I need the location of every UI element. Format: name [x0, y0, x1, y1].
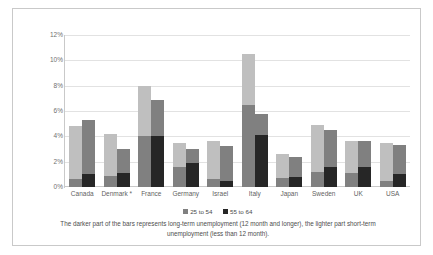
bar-segment-long-term	[173, 167, 186, 187]
chart-container: 0%2%4%6%8%10%12% CanadaDenmark *FranceGe…	[12, 8, 421, 246]
bar-age-25-54[interactable]	[276, 154, 289, 187]
bar-age-55-64[interactable]	[151, 100, 164, 187]
bar-segment-short-term	[186, 149, 199, 163]
bar-age-25-54[interactable]	[104, 134, 117, 187]
bar-age-55-64[interactable]	[186, 149, 199, 187]
bar-groups	[65, 35, 410, 187]
x-axis-tick-label: Canada	[65, 189, 100, 203]
bar-age-25-54[interactable]	[207, 141, 220, 187]
x-axis-tick-label: Sweden	[307, 189, 342, 203]
bar-age-55-64[interactable]	[117, 149, 130, 187]
bar-age-55-64[interactable]	[358, 141, 371, 187]
bar-segment-long-term	[104, 176, 117, 187]
bar-group	[203, 35, 238, 187]
bar-segment-long-term	[242, 105, 255, 187]
bar-group	[341, 35, 376, 187]
bar-segment-long-term	[186, 163, 199, 187]
x-axis-tick-label: Japan	[272, 189, 307, 203]
bar-segment-short-term	[69, 126, 82, 179]
bar-segment-long-term	[345, 173, 358, 187]
x-axis-tick-label: Italy	[238, 189, 273, 203]
bar-age-55-64[interactable]	[324, 130, 337, 187]
x-axis-tick-label: USA	[376, 189, 411, 203]
x-axis: CanadaDenmark *FranceGermanyIsraelItalyJ…	[65, 189, 410, 203]
bar-segment-long-term	[207, 179, 220, 187]
bar-segment-short-term	[345, 141, 358, 173]
bar-segment-short-term	[311, 125, 324, 172]
bar-segment-short-term	[380, 143, 393, 181]
y-axis: 0%2%4%6%8%10%12%	[27, 9, 63, 209]
bar-segment-long-term	[358, 167, 371, 187]
bar-segment-short-term	[104, 134, 117, 176]
bar-age-55-64[interactable]	[393, 145, 406, 187]
bar-segment-long-term	[276, 178, 289, 187]
y-axis-tick-label: 2%	[29, 158, 63, 166]
chart-footnote: The darker part of the bars represents l…	[39, 219, 397, 238]
bar-segment-short-term	[82, 120, 95, 174]
legend-label: 55 to 64	[230, 208, 252, 215]
bar-age-25-54[interactable]	[242, 54, 255, 187]
bar-age-25-54[interactable]	[380, 143, 393, 187]
bar-group	[307, 35, 342, 187]
bar-age-25-54[interactable]	[173, 143, 186, 187]
bar-group	[272, 35, 307, 187]
x-axis-tick-label: France	[134, 189, 169, 203]
chart-legend: 25 to 5455 to 64	[13, 205, 422, 217]
bar-group	[238, 35, 273, 187]
bar-segment-short-term	[289, 157, 302, 177]
bar-segment-short-term	[242, 54, 255, 105]
bar-segment-short-term	[393, 145, 406, 174]
bar-segment-long-term	[117, 173, 130, 187]
legend-swatch-icon	[183, 209, 188, 214]
bar-group	[169, 35, 204, 187]
y-axis-tick-label: 0%	[29, 183, 63, 191]
bar-age-55-64[interactable]	[255, 114, 268, 187]
bar-age-25-54[interactable]	[311, 125, 324, 187]
bar-segment-short-term	[173, 143, 186, 167]
bar-segment-long-term	[393, 174, 406, 187]
bar-segment-long-term	[324, 167, 337, 187]
bar-segment-short-term	[324, 130, 337, 167]
bar-group	[376, 35, 411, 187]
bar-segment-short-term	[220, 146, 233, 180]
y-axis-tick-label: 12%	[29, 31, 63, 39]
plot-area	[65, 35, 410, 187]
x-axis-tick-label: Denmark *	[100, 189, 135, 203]
legend-label: 25 to 54	[190, 208, 212, 215]
x-axis-tick-label: UK	[341, 189, 376, 203]
bar-group	[65, 35, 100, 187]
y-axis-tick-label: 8%	[29, 82, 63, 90]
bar-segment-long-term	[82, 174, 95, 187]
bar-segment-long-term	[69, 179, 82, 187]
bar-age-25-54[interactable]	[138, 86, 151, 187]
x-axis-tick-label: Israel	[203, 189, 238, 203]
bar-age-25-54[interactable]	[345, 141, 358, 187]
bar-segment-short-term	[151, 100, 164, 137]
bar-age-25-54[interactable]	[69, 126, 82, 187]
bar-segment-long-term	[289, 177, 302, 187]
bar-segment-short-term	[255, 114, 268, 136]
y-axis-tick-label: 10%	[29, 56, 63, 64]
bar-segment-long-term	[151, 136, 164, 187]
legend-item[interactable]: 25 to 54	[183, 208, 213, 215]
bar-segment-long-term	[138, 136, 151, 187]
bar-segment-long-term	[220, 181, 233, 187]
bar-segment-short-term	[138, 86, 151, 137]
bar-segment-short-term	[117, 149, 130, 173]
bar-segment-short-term	[276, 154, 289, 178]
legend-swatch-icon	[223, 209, 228, 214]
bar-segment-long-term	[380, 181, 393, 187]
plot-wrapper: 0%2%4%6%8%10%12% CanadaDenmark *FranceGe…	[13, 9, 422, 209]
y-axis-tick-label: 6%	[29, 107, 63, 115]
bar-segment-long-term	[311, 172, 324, 187]
bar-age-55-64[interactable]	[289, 157, 302, 187]
y-axis-tick-label: 4%	[29, 132, 63, 140]
legend-item[interactable]: 55 to 64	[223, 208, 253, 215]
bar-segment-short-term	[207, 141, 220, 179]
bar-segment-long-term	[255, 135, 268, 187]
bar-segment-short-term	[358, 141, 371, 166]
bar-age-55-64[interactable]	[82, 120, 95, 187]
bar-age-55-64[interactable]	[220, 146, 233, 187]
x-axis-tick-label: Germany	[169, 189, 204, 203]
bar-group	[134, 35, 169, 187]
